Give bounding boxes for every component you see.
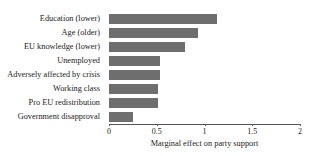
- bar: [109, 42, 185, 52]
- bar: [109, 28, 198, 38]
- marginal-effect-bar-chart: Education (lower)Age (older)EU knowledge…: [0, 0, 316, 156]
- category-label: Government disapproval: [0, 110, 104, 124]
- x-axis-title: Marginal effect on party support: [109, 139, 300, 148]
- bar-row: [109, 26, 300, 40]
- category-label: Unemployed: [0, 54, 104, 68]
- plot-area: [109, 12, 300, 124]
- bar: [109, 112, 133, 122]
- bar: [109, 14, 217, 24]
- bar-row: [109, 82, 300, 96]
- tick-label: 1.5: [247, 126, 257, 138]
- category-label: Age (older): [0, 26, 104, 40]
- category-label: Pro EU redistribution: [0, 96, 104, 110]
- tick-label: 0: [107, 126, 111, 138]
- category-label: Education (lower): [0, 12, 104, 26]
- category-label: EU knowledge (lower): [0, 40, 104, 54]
- category-axis-labels: Education (lower)Age (older)EU knowledge…: [0, 12, 104, 124]
- category-label: Adversely affected by crisis: [0, 68, 104, 82]
- bar-row: [109, 68, 300, 82]
- bar: [109, 84, 158, 94]
- tick-label: 0.5: [152, 126, 162, 138]
- bar-row: [109, 40, 300, 54]
- bar-row: [109, 96, 300, 110]
- category-label: Working class: [0, 82, 104, 96]
- tick-label: 1: [203, 126, 207, 138]
- tick-label: 2: [298, 126, 302, 138]
- bar: [109, 56, 160, 66]
- bar: [109, 98, 158, 108]
- bar: [109, 70, 160, 80]
- bar-row: [109, 54, 300, 68]
- x-axis-tick-labels: 00.511.52: [109, 126, 300, 138]
- bar-row: [109, 12, 300, 26]
- bar-row: [109, 110, 300, 124]
